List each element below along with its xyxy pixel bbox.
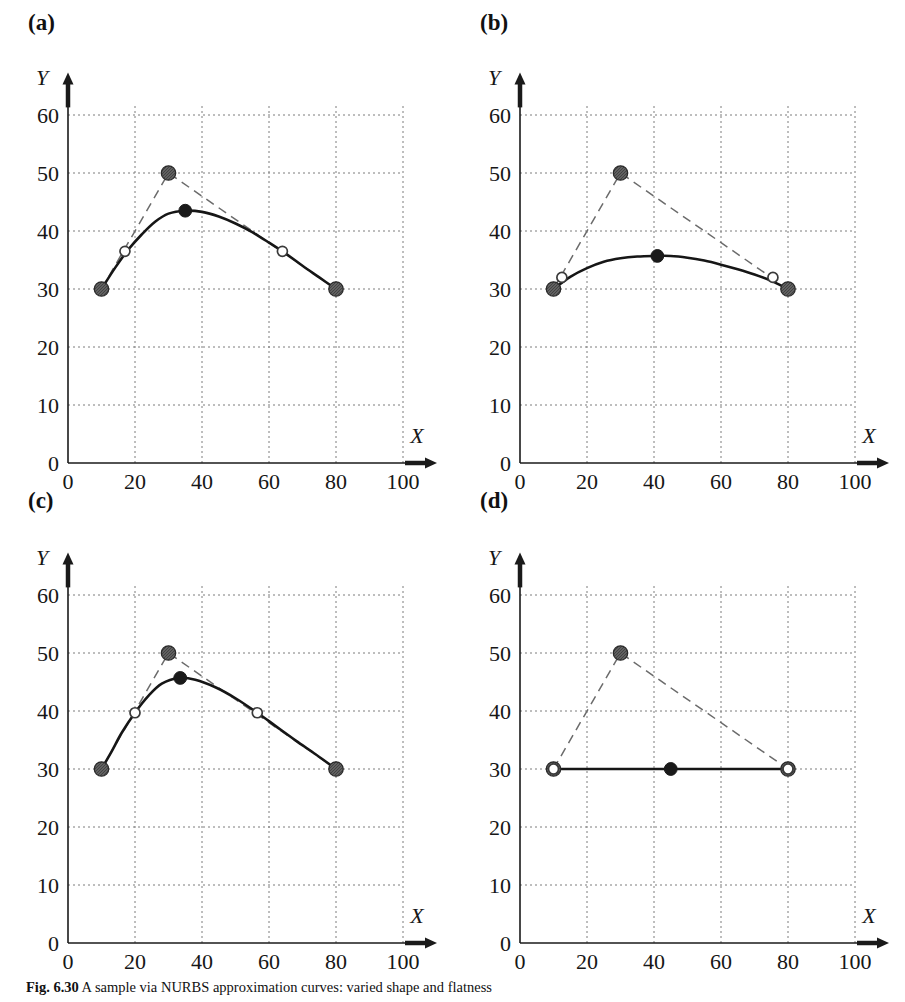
peak-point-marker xyxy=(174,672,187,685)
caption-label: Fig. 6.30 xyxy=(26,979,79,995)
y-tick-label: 50 xyxy=(37,641,59,666)
x-tick-label: 80 xyxy=(777,949,799,970)
y-axis-label: Y xyxy=(488,545,503,570)
control-point-marker xyxy=(329,762,343,776)
y-tick-label: 20 xyxy=(489,815,511,840)
tick-labels: 0204060801000102030405060XY xyxy=(36,65,425,490)
y-tick-label: 30 xyxy=(489,277,511,302)
y-tick-label: 0 xyxy=(48,931,59,956)
y-tick-label: 60 xyxy=(37,103,59,128)
y-tick-label: 10 xyxy=(37,873,59,898)
panel-b: (b) 0204060801000102030405060XY xyxy=(452,6,904,490)
approximation-curve xyxy=(102,211,337,289)
y-tick-label: 60 xyxy=(37,583,59,608)
x-tick-label: 20 xyxy=(124,949,146,970)
y-axis-arrowhead xyxy=(515,552,526,564)
y-tick-label: 50 xyxy=(489,161,511,186)
y-axis-arrowhead xyxy=(63,552,74,564)
y-tick-label: 0 xyxy=(500,931,511,956)
x-axis-arrowhead xyxy=(877,938,889,949)
knot-point-marker xyxy=(252,708,262,718)
control-point-marker xyxy=(781,282,795,296)
control-point-marker xyxy=(94,282,108,296)
y-tick-label: 10 xyxy=(489,393,511,418)
x-axis-arrowhead xyxy=(877,458,889,469)
tick-labels: 0204060801000102030405060XY xyxy=(36,545,425,970)
x-axis-arrowhead xyxy=(425,458,437,469)
y-tick-label: 60 xyxy=(489,583,511,608)
knot-point-marker xyxy=(549,764,559,774)
y-tick-label: 60 xyxy=(489,103,511,128)
y-tick-label: 30 xyxy=(37,277,59,302)
x-tick-label: 0 xyxy=(63,949,74,970)
control-point-marker xyxy=(94,762,108,776)
panel-a-plot: 0204060801000102030405060XY xyxy=(0,6,452,490)
x-tick-label: 80 xyxy=(325,949,347,970)
x-axis-label: X xyxy=(409,423,425,448)
panel-a: (a) 0204060801000102030405060XY xyxy=(0,6,452,490)
y-tick-label: 40 xyxy=(37,699,59,724)
y-tick-label: 0 xyxy=(48,451,59,476)
y-tick-label: 20 xyxy=(37,335,59,360)
panel-c: (c) 0204060801000102030405060XY xyxy=(0,486,452,970)
figure-container: (a) 0204060801000102030405060XY (b) 0204… xyxy=(0,0,905,1002)
y-axis-arrowhead xyxy=(63,72,74,84)
tick-labels: 0204060801000102030405060XY xyxy=(488,545,877,970)
panel-c-plot: 0204060801000102030405060XY xyxy=(0,486,452,970)
control-point-marker xyxy=(161,166,175,180)
control-point-marker xyxy=(613,166,627,180)
x-tick-label: 0 xyxy=(515,949,526,970)
y-axis-arrowhead xyxy=(515,72,526,84)
panel-b-plot: 0204060801000102030405060XY xyxy=(452,6,904,490)
knot-point-marker xyxy=(120,246,130,256)
y-tick-label: 30 xyxy=(489,757,511,782)
panel-d-plot: 0204060801000102030405060XY xyxy=(452,486,904,970)
knot-point-marker xyxy=(277,246,287,256)
knot-point-marker xyxy=(130,708,140,718)
control-point-marker xyxy=(161,646,175,660)
approximation-curve xyxy=(102,678,337,769)
grid-lines xyxy=(68,103,403,463)
axes xyxy=(515,72,890,468)
axes xyxy=(515,552,890,948)
panel-d: (d) 0204060801000102030405060XY xyxy=(452,486,904,970)
approximation-curve xyxy=(554,256,789,289)
y-tick-label: 50 xyxy=(37,161,59,186)
y-tick-label: 40 xyxy=(489,699,511,724)
x-tick-label: 60 xyxy=(710,949,732,970)
y-tick-label: 0 xyxy=(500,451,511,476)
y-tick-label: 20 xyxy=(37,815,59,840)
y-tick-label: 10 xyxy=(37,393,59,418)
peak-point-marker xyxy=(664,763,677,776)
y-tick-label: 30 xyxy=(37,757,59,782)
y-axis-label: Y xyxy=(488,65,503,90)
x-tick-label: 100 xyxy=(387,949,420,970)
y-axis-label: Y xyxy=(36,545,51,570)
y-tick-label: 20 xyxy=(489,335,511,360)
grid-lines xyxy=(520,103,855,463)
grid-lines xyxy=(68,583,403,943)
control-point-marker xyxy=(613,646,627,660)
grid-lines xyxy=(520,583,855,943)
x-tick-label: 40 xyxy=(643,949,665,970)
knot-point-marker xyxy=(557,272,567,282)
x-tick-label: 100 xyxy=(839,949,872,970)
y-tick-label: 40 xyxy=(489,219,511,244)
x-axis-label: X xyxy=(861,423,877,448)
axes xyxy=(63,72,438,468)
tick-labels: 0204060801000102030405060XY xyxy=(488,65,877,490)
knot-point-marker xyxy=(768,272,778,282)
peak-point-marker xyxy=(179,204,192,217)
control-point-marker xyxy=(329,282,343,296)
y-tick-label: 40 xyxy=(37,219,59,244)
y-axis-label: Y xyxy=(36,65,51,90)
y-tick-label: 50 xyxy=(489,641,511,666)
x-tick-label: 60 xyxy=(258,949,280,970)
x-axis-label: X xyxy=(409,903,425,928)
x-tick-label: 40 xyxy=(191,949,213,970)
x-axis-label: X xyxy=(861,903,877,928)
caption-text: A sample via NURBS approximation curves:… xyxy=(82,979,492,995)
x-tick-label: 20 xyxy=(576,949,598,970)
peak-point-marker xyxy=(651,250,664,263)
axes xyxy=(63,552,438,948)
